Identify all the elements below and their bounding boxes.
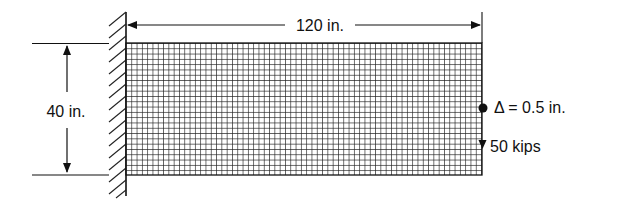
beam-mesh [126,43,482,175]
depth-dimension: 40 in. [32,44,109,176]
load-label: 50 kips [490,138,541,155]
beam-diagram: 120 in. 40 in. Δ = 0.5 in. 50 kips [0,0,640,201]
length-dimension: 120 in. [128,12,482,43]
displacement-label: Δ = 0.5 in. [494,99,566,116]
filled-circle-icon [479,104,488,113]
hatched-wall-icon [109,12,126,198]
depth-label: 40 in. [46,103,85,120]
tip-annotations: Δ = 0.5 in. 50 kips [479,99,566,155]
diagram-canvas: 120 in. 40 in. Δ = 0.5 in. 50 kips [0,0,640,201]
length-label: 120 in. [296,17,344,34]
